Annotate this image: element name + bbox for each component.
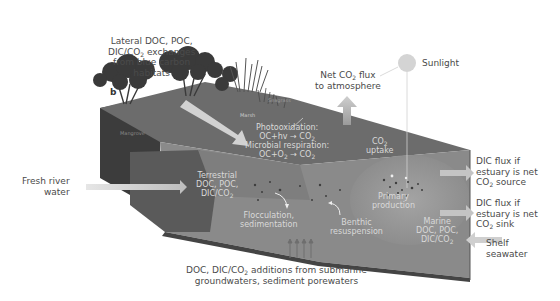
- marine-label: Marine DOC, POC, DIC/CO2: [416, 217, 458, 244]
- groundwater-label: DOC, DIC/CO2 additions from submarine gr…: [186, 265, 367, 286]
- marsh-label: Marsh: [240, 112, 255, 118]
- dic-sink-label: DIC flux if estuary is net CO2 sink: [476, 198, 538, 230]
- terrestrial-label: Terrestrial DOC, POC, DIC/CO2: [196, 171, 238, 198]
- fresh-river-label: Fresh river water: [22, 176, 70, 197]
- co2-uptake-label: CO2 uptake: [366, 137, 393, 155]
- dic-source-label: DIC flux if estuary is net CO2 source: [476, 156, 538, 188]
- lateral-exchange-label: Lateral DOC, POC, DIC/CO2 exchanges from…: [108, 36, 195, 78]
- sunlight-label: Sunlight: [422, 58, 459, 69]
- net-co2-flux-label: Net CO2 flux to atmosphere: [315, 70, 381, 91]
- primary-production-label: Primary production: [372, 192, 415, 210]
- mangrove-label: Mangrove: [120, 130, 145, 136]
- seagrass-label: Seagrass: [268, 97, 291, 103]
- photooxidation-label: Photooxidation: OC+hv → CO2 Microbial re…: [245, 123, 329, 159]
- flocculation-label: Flocculation, sedimentation: [240, 211, 298, 229]
- sun-icon: [398, 54, 416, 72]
- panel-label: b: [110, 87, 116, 97]
- shelf-seawater-label: Shelf seawater: [486, 238, 527, 259]
- benthic-label: Benthic resuspension: [330, 218, 383, 236]
